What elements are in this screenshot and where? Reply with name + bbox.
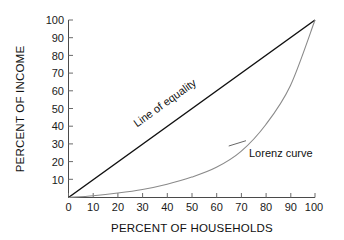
chart-canvas: PERCENT OF INCOME PERCENT OF HOUSEHOLDS …: [0, 0, 344, 240]
x-axis-title: PERCENT OF HOUSEHOLDS: [111, 222, 273, 234]
x-tick-label: 30: [136, 201, 148, 213]
y-tick-label: 70: [52, 67, 64, 79]
lorenz-curve-chart: PERCENT OF INCOME PERCENT OF HOUSEHOLDS …: [0, 0, 344, 240]
y-tick-label: 20: [52, 156, 64, 168]
x-tick-label: 100: [305, 201, 323, 213]
x-tick-label: 20: [112, 201, 124, 213]
x-tick-label: 0: [65, 201, 71, 213]
x-tick-label: 10: [87, 201, 99, 213]
x-tick-label: 70: [235, 201, 247, 213]
y-tick-label: 60: [52, 85, 64, 97]
y-tick-label: 10: [52, 174, 64, 186]
y-tick-label: 100: [46, 14, 64, 26]
x-tick-label: 60: [211, 201, 223, 213]
x-tick-label: 90: [285, 201, 297, 213]
y-tick-label: 80: [52, 50, 64, 62]
y-tick-label: 50: [52, 103, 64, 115]
y-tick-label: 90: [52, 32, 64, 44]
x-tick-label: 80: [260, 201, 272, 213]
y-tick-label: 30: [52, 138, 64, 150]
x-tick-label: 50: [186, 201, 198, 213]
y-axis-title: PERCENT OF INCOME: [14, 46, 26, 173]
x-tick-label: 40: [161, 201, 173, 213]
lorenz-curve-label: Lorenz curve: [249, 147, 313, 159]
y-tick-label: 40: [52, 120, 64, 132]
